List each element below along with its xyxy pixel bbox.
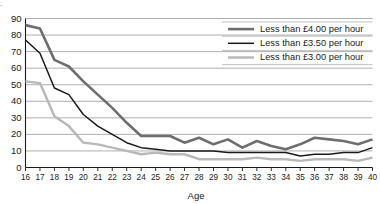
legend-label-3: Less than £3.00 per hour xyxy=(260,52,363,62)
x-axis-tick-label: 16 xyxy=(21,173,31,182)
y-axis-tick-labels: 0102030405060708090 xyxy=(11,13,22,173)
x-axis-tick-labels: 1617181920212223242526272829303132333435… xyxy=(21,173,378,182)
x-axis-tick-label: 22 xyxy=(108,173,118,182)
legend-label-2: Less than £3.50 per hour xyxy=(260,38,363,48)
y-axis-tick-label: 60 xyxy=(11,62,22,73)
x-axis-tick-label: 19 xyxy=(64,173,74,182)
x-axis-tick-label: 38 xyxy=(339,173,349,182)
y-axis-tick-label: 10 xyxy=(11,145,22,156)
x-axis-tick-label: 32 xyxy=(252,173,262,182)
series-line-3 xyxy=(26,81,373,160)
y-axis-tick-label: 70 xyxy=(11,46,22,57)
y-axis-tick-label: 90 xyxy=(11,13,22,24)
y-axis-tick-label: 80 xyxy=(11,29,22,40)
cropped-title-remnant: . xyxy=(0,0,380,6)
y-axis-tick-label: 40 xyxy=(11,95,22,106)
x-axis-tick-label: 34 xyxy=(281,173,291,182)
x-axis-tick-label: 25 xyxy=(151,173,161,182)
x-axis-tick-label: 27 xyxy=(180,173,190,182)
x-axis-tick-label: 35 xyxy=(296,173,306,182)
x-axis-tick-label: 40 xyxy=(368,173,378,182)
x-axis-tick-label: 36 xyxy=(310,173,320,182)
x-axis-tick-label: 18 xyxy=(50,173,60,182)
x-axis-tick-label: 23 xyxy=(122,173,132,182)
legend-label-1: Less than £4.00 per hour xyxy=(260,24,363,34)
y-axis-tick-label: 20 xyxy=(11,128,22,139)
x-axis-tick-label: 28 xyxy=(194,173,204,182)
x-axis-tick-label: 30 xyxy=(223,173,233,182)
x-axis-tick-label: 33 xyxy=(267,173,277,182)
y-axis-tick-label: 50 xyxy=(11,79,22,90)
x-axis-tick-label: 26 xyxy=(166,173,176,182)
x-axis-tick-label: 31 xyxy=(238,173,248,182)
x-axis-tick-label: 24 xyxy=(137,173,147,182)
y-axis-tick-label: 30 xyxy=(11,112,22,123)
line-chart: 0102030405060708090 16171819202122232425… xyxy=(0,0,380,204)
chart-container: . 0102030405060708090 161718192021222324… xyxy=(0,0,380,204)
x-axis-tick-label: 17 xyxy=(35,173,45,182)
x-axis-tick-label: 39 xyxy=(353,173,363,182)
x-axis-tick-label: 21 xyxy=(93,173,103,182)
y-axis-tick-label: 0 xyxy=(16,162,21,173)
x-axis-tick-label: 20 xyxy=(79,173,89,182)
x-axis-title: Age xyxy=(188,190,205,201)
x-axis-tick-label: 29 xyxy=(209,173,219,182)
chart-legend: Less than £4.00 per hourLess than £3.50 … xyxy=(222,22,373,65)
x-axis-tick-label: 37 xyxy=(325,173,335,182)
